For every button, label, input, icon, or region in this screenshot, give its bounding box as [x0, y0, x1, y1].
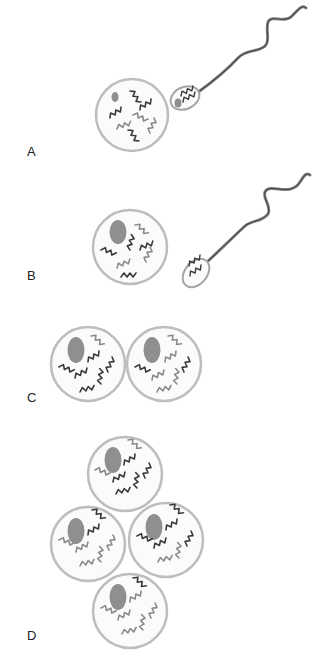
panel-a [96, 7, 306, 151]
panel-label-a: A [27, 144, 36, 159]
cell-left [51, 327, 125, 401]
pronucleus [110, 220, 127, 244]
panel-b [93, 174, 310, 292]
cell-right [127, 327, 201, 401]
egg-nucleus [112, 92, 119, 102]
sperm-tail-icon [197, 7, 306, 93]
panel-label-d: D [27, 628, 36, 643]
sperm-head [167, 82, 203, 115]
fertilization-diagram [0, 0, 319, 650]
cell-bottom [93, 574, 167, 648]
panel-label-c: C [27, 390, 36, 405]
cell-left [51, 507, 125, 581]
panel-d [51, 437, 203, 648]
cell-top [88, 437, 162, 511]
egg-cell [96, 79, 168, 151]
cell-right [129, 502, 203, 577]
panel-c [51, 327, 201, 401]
sperm-tail-icon [207, 174, 310, 262]
panel-label-b: B [27, 268, 36, 283]
